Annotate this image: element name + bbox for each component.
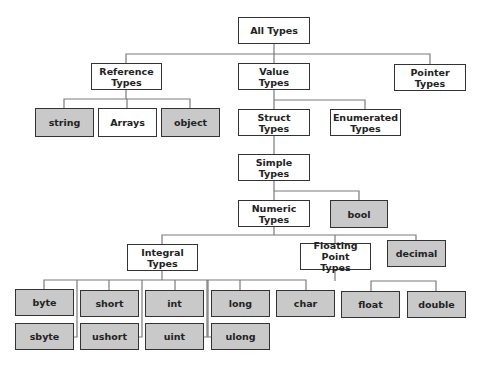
node-value-types: Value Types xyxy=(238,63,310,90)
node-string: string xyxy=(35,108,94,137)
node-ulong: ulong xyxy=(211,323,270,350)
type-hierarchy-diagram: All Types Reference Types Value Types Po… xyxy=(0,0,489,368)
node-float: float xyxy=(341,291,400,318)
node-sbyte: sbyte xyxy=(15,323,74,350)
node-struct-types: Struct Types xyxy=(238,109,310,136)
node-numeric-types: Numeric Types xyxy=(238,200,310,227)
node-all-types: All Types xyxy=(238,17,310,44)
node-integral-types: Integral Types xyxy=(127,244,198,271)
node-floating-point-types: Floating Point Types xyxy=(300,243,371,270)
node-pointer-types: Pointer Types xyxy=(394,64,466,91)
node-long: long xyxy=(211,290,270,317)
node-double: double xyxy=(407,291,466,318)
node-enumerated-types: Enumerated Types xyxy=(330,109,401,136)
node-byte: byte xyxy=(15,289,74,316)
node-bool: bool xyxy=(330,200,388,228)
node-arrays: Arrays xyxy=(98,108,157,137)
node-short: short xyxy=(80,290,139,317)
node-uint: uint xyxy=(145,323,204,350)
node-decimal: decimal xyxy=(387,240,446,267)
node-ushort: ushort xyxy=(80,323,139,350)
node-int: int xyxy=(145,290,204,317)
node-object: object xyxy=(161,108,220,137)
node-char: char xyxy=(276,290,335,317)
node-reference-types: Reference Types xyxy=(91,63,162,90)
node-simple-types: Simple Types xyxy=(238,154,310,181)
